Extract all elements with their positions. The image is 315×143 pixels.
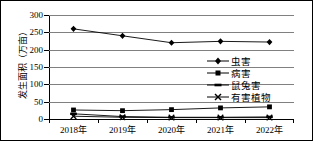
legend-item-chonghai[interactable]: 虫害 bbox=[207, 55, 307, 67]
data-point bbox=[120, 108, 125, 113]
y-tick-label-200: 200 bbox=[30, 45, 44, 55]
y-tick-label-300: 300 bbox=[30, 10, 44, 20]
legend-item-youhaizhiwu[interactable]: 有害植物 bbox=[207, 91, 307, 103]
x-tick-label-2022: 2022年 bbox=[256, 123, 283, 136]
x-tick-label-2018: 2018年 bbox=[60, 123, 87, 136]
x-tick-3 bbox=[196, 119, 197, 123]
x-axis-line bbox=[49, 119, 294, 120]
x-tick-end bbox=[293, 119, 294, 123]
y-tick-label-250: 250 bbox=[30, 27, 44, 37]
x-tick-label-2020: 2020年 bbox=[158, 123, 185, 136]
diamond-marker-icon bbox=[207, 55, 229, 67]
legend: 虫害 病害 鼠兔害 有害植物 bbox=[207, 55, 307, 103]
dash-marker-icon bbox=[207, 79, 229, 91]
data-point bbox=[169, 107, 174, 112]
x-tick-1 bbox=[98, 119, 99, 123]
series-0 bbox=[71, 26, 273, 46]
data-point bbox=[218, 38, 224, 44]
y-axis-title: 发生面积（万亩） bbox=[16, 10, 29, 115]
x-tick-4 bbox=[245, 119, 246, 123]
data-point bbox=[71, 26, 77, 32]
cross-marker-icon bbox=[207, 91, 229, 103]
x-tick-label-2019: 2019年 bbox=[109, 123, 136, 136]
data-point bbox=[218, 106, 223, 111]
square-marker-icon bbox=[207, 67, 229, 79]
data-point bbox=[267, 104, 272, 109]
data-point bbox=[120, 33, 126, 39]
y-tick-label-50: 50 bbox=[34, 97, 43, 107]
x-tick-start bbox=[49, 119, 50, 123]
data-point bbox=[71, 108, 76, 113]
x-tick-2 bbox=[147, 119, 148, 123]
chart-figure: 发生面积（万亩） 300 250 200 150 100 50 0 2018年 bbox=[0, 0, 313, 141]
legend-label-youhaizhiwu: 有害植物 bbox=[231, 90, 271, 104]
data-point bbox=[267, 39, 273, 45]
y-tick-label-0: 0 bbox=[39, 114, 44, 124]
y-tick-label-150: 150 bbox=[30, 62, 44, 72]
x-tick-label-2021: 2021年 bbox=[207, 123, 234, 136]
data-point bbox=[169, 40, 175, 46]
series-1 bbox=[71, 104, 272, 113]
y-tick-label-100: 100 bbox=[30, 79, 44, 89]
